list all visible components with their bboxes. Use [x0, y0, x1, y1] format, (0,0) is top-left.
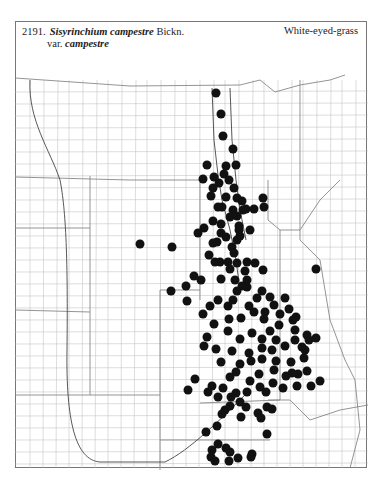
occurrence-dot	[222, 233, 231, 242]
occurrence-dot	[212, 345, 221, 354]
occurrence-dot	[303, 331, 312, 340]
occurrence-dot	[258, 335, 267, 344]
occurrence-dot	[207, 192, 216, 201]
occurrence-dot	[316, 377, 325, 386]
occurrence-dot	[260, 315, 269, 324]
occurrence-dot	[227, 393, 236, 402]
occurrence-dot	[136, 240, 145, 249]
occurrence-dot	[291, 336, 300, 345]
occurrence-dot	[204, 388, 213, 397]
occurrence-dot	[236, 335, 245, 344]
occurrence-dot	[307, 382, 316, 391]
occurrence-dot	[184, 386, 193, 395]
occurrence-dot	[218, 410, 227, 419]
occurrence-dot	[279, 384, 288, 393]
occurrence-dot	[246, 377, 255, 386]
occurrence-dot	[217, 358, 226, 367]
occurrence-dot	[222, 162, 231, 171]
occurrence-dot	[255, 370, 264, 379]
occurrence-dot	[219, 132, 228, 141]
occurrence-dot	[226, 265, 235, 274]
occurrence-dot	[237, 314, 246, 323]
occurrence-dot	[209, 217, 218, 226]
occurrence-dot	[232, 161, 241, 170]
occurrence-dot	[246, 226, 255, 235]
occurrence-dot	[266, 293, 275, 302]
occurrence-dot	[214, 203, 223, 212]
occurrence-dot	[206, 302, 215, 311]
occurrence-dot	[281, 294, 290, 303]
occurrence-dot	[258, 287, 267, 296]
occurrence-dot	[248, 329, 257, 338]
occurrence-dot	[207, 453, 216, 462]
occurrence-dot	[258, 344, 267, 353]
occurrence-dot	[222, 193, 231, 202]
occurrence-dot	[205, 251, 214, 260]
occurrence-dot	[303, 367, 312, 376]
occurrence-dot	[217, 275, 226, 284]
occurrence-dot	[210, 320, 219, 329]
occurrence-dot	[228, 347, 237, 356]
occurrence-dot	[266, 327, 275, 336]
occurrence-dot	[217, 220, 226, 229]
occurrence-dot	[224, 302, 233, 311]
occurrence-dot	[263, 430, 272, 439]
occurrence-dot	[229, 145, 238, 154]
occurrence-dot	[234, 454, 243, 463]
occurrence-dot	[259, 194, 268, 203]
occurrence-dot	[275, 321, 284, 330]
occurrence-dot	[230, 184, 239, 193]
occurrence-dot	[257, 414, 266, 423]
occurrence-dot	[226, 402, 235, 411]
occurrence-dot	[238, 197, 247, 206]
occurrence-dot	[168, 243, 177, 252]
occurrence-dot	[197, 276, 206, 285]
occurrence-dot	[276, 310, 285, 319]
occurrence-dot	[199, 175, 208, 184]
occurrence-dot	[225, 457, 234, 466]
occurrence-dot	[287, 358, 296, 367]
occurrence-dot	[281, 342, 290, 351]
occurrence-dot	[191, 375, 200, 384]
occurrence-dot	[268, 346, 277, 355]
occurrence-dot	[199, 310, 208, 319]
occurrence-dot	[269, 379, 278, 388]
occurrence-dot	[270, 366, 279, 375]
occurrence-dot	[233, 212, 242, 221]
occurrence-dot	[167, 287, 176, 296]
occurrence-dot	[245, 302, 254, 311]
occurrence-dot	[300, 354, 309, 363]
occurrence-dot	[200, 342, 209, 351]
occurrence-dot	[291, 326, 300, 335]
range-boundary-lines	[30, 80, 250, 462]
occurrence-dot	[259, 266, 268, 275]
occurrence-dot	[202, 428, 211, 437]
occurrence-dot	[214, 296, 223, 305]
occurrence-dot	[194, 229, 203, 238]
occurrence-dot	[209, 239, 218, 248]
occurrence-dot	[272, 357, 281, 366]
occurrence-dot	[219, 384, 228, 393]
occurrence-dot	[293, 382, 302, 391]
occurrence-dot	[272, 336, 281, 345]
occurrence-dot	[225, 176, 234, 185]
occurrence-dot	[262, 388, 271, 397]
occurrence-dot	[236, 360, 245, 369]
occurrence-dot	[260, 203, 269, 212]
occurrence-dot	[233, 287, 242, 296]
occurrence-dot	[237, 413, 246, 422]
occurrence-dot	[236, 398, 245, 407]
occurrence-dot	[203, 161, 212, 170]
occurrence-dot	[225, 315, 234, 324]
occurrence-dot	[217, 110, 226, 119]
occurrence-dot	[243, 388, 252, 397]
occurrence-dot	[243, 258, 252, 267]
occurrence-dot	[250, 205, 259, 214]
occurrence-dot	[301, 346, 310, 355]
occurrence-dot	[285, 305, 294, 314]
occurrence-dot	[214, 393, 223, 402]
occurrence-dot	[212, 89, 221, 98]
occurrence-dot	[270, 301, 279, 310]
occurrence-dot	[224, 327, 233, 336]
occurrence-dot	[230, 249, 239, 258]
